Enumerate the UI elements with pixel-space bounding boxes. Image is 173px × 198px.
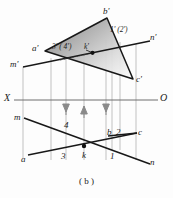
- label-m-prime: m': [10, 60, 18, 69]
- label-n-prime: n': [150, 33, 156, 42]
- label-4: 4: [64, 121, 69, 130]
- label-m: m: [14, 113, 21, 122]
- label-c-prime: c': [136, 75, 142, 84]
- axis-label-x: X: [4, 93, 10, 103]
- k-point: [82, 144, 86, 148]
- label-1: 1: [110, 152, 115, 161]
- label-2: 2: [116, 128, 121, 137]
- label-n: n: [150, 158, 155, 167]
- figure-caption: ( b ): [0, 176, 173, 186]
- label-1prime-2prime: 1' (2'): [110, 26, 128, 34]
- label-k-prime: k': [84, 43, 89, 51]
- label-a-prime: a': [32, 44, 38, 53]
- projection-arrows: [63, 104, 110, 118]
- top-view-line-mn: [24, 118, 150, 164]
- axis-label-o: O: [160, 93, 167, 103]
- arrow-down-1: [103, 104, 110, 115]
- arrow-down-4: [63, 104, 70, 115]
- label-b-prime: b': [103, 7, 109, 16]
- projection-drawing-canvas: [0, 0, 173, 198]
- label-3prime-4prime: 3' ( 4'): [52, 43, 71, 51]
- label-c: c: [138, 128, 142, 137]
- k-prime-point: [90, 51, 94, 55]
- label-3: 3: [61, 152, 66, 161]
- label-b: b: [107, 128, 112, 137]
- label-k: k: [82, 151, 86, 160]
- figure-root: X O a' b' c' m' n' 3' ( 4') k' 1' (2') a…: [0, 0, 173, 198]
- label-a: a: [21, 155, 26, 164]
- arrow-up-k: [81, 106, 88, 118]
